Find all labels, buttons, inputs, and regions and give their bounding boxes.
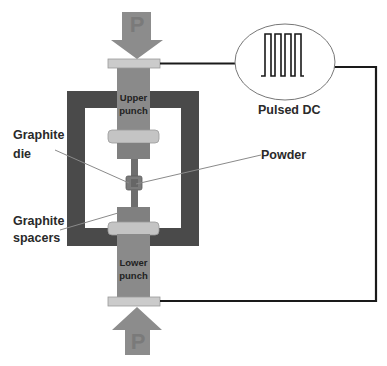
graphite-die-label: Graphite die bbox=[13, 128, 64, 162]
upper-rod bbox=[131, 159, 138, 177]
sps-diagram bbox=[0, 0, 387, 366]
lower-graphite-spacer bbox=[117, 207, 150, 223]
pressure-label-top: P bbox=[126, 14, 148, 36]
bottom-electrode-plate bbox=[108, 297, 160, 306]
powder bbox=[131, 179, 138, 187]
upper-punch-label: Upper punch bbox=[113, 92, 154, 116]
powder-label: Powder bbox=[261, 148, 306, 163]
upper-spacer-ring bbox=[108, 130, 159, 143]
top-electrode-plate bbox=[108, 59, 160, 68]
graphite-die-label-line2: die bbox=[13, 147, 64, 162]
pressure-label-bottom: P bbox=[127, 331, 149, 353]
graphite-spacers-label-line2: spacers bbox=[13, 231, 64, 246]
lower-punch-label: Lower punch bbox=[113, 257, 154, 281]
lower-punch-label-line1: Lower bbox=[113, 257, 154, 268]
lower-rod bbox=[131, 190, 138, 208]
graphite-spacers-label-line1: Graphite bbox=[13, 214, 64, 229]
upper-punch-label-line2: punch bbox=[113, 105, 154, 116]
pulsed-dc-label: Pulsed DC bbox=[258, 103, 321, 118]
lower-punch-label-line2: punch bbox=[113, 270, 154, 281]
graphite-die-label-line1: Graphite bbox=[13, 128, 64, 143]
upper-graphite-spacer bbox=[117, 143, 150, 159]
upper-punch-label-line1: Upper bbox=[113, 92, 154, 103]
lower-spacer-ring bbox=[108, 222, 159, 235]
graphite-spacers-label: Graphite spacers bbox=[13, 214, 64, 246]
